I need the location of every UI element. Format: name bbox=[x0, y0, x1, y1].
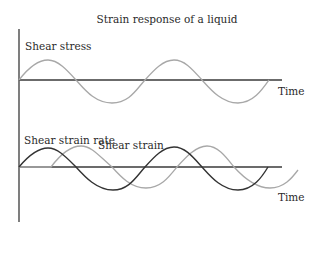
top-time-label: Time bbox=[278, 85, 305, 97]
shear-strain-rate-curve bbox=[19, 147, 268, 190]
shear-strain-label: Shear strain bbox=[98, 139, 164, 151]
top-panel: Shear stress Time bbox=[19, 40, 305, 103]
shear-stress-label: Shear stress bbox=[25, 40, 91, 52]
bottom-time-label: Time bbox=[278, 191, 305, 203]
shear-stress-curve bbox=[19, 60, 269, 103]
strain-response-diagram: Strain response of a liquid Shear stress… bbox=[0, 0, 317, 256]
diagram-title: Strain response of a liquid bbox=[97, 13, 238, 25]
bottom-panel: Shear strain rate Shear strain Time bbox=[19, 134, 305, 203]
